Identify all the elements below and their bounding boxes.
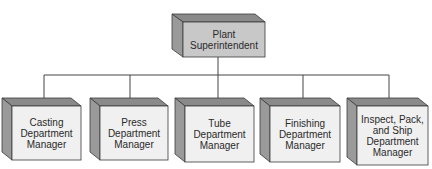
label-line: Department xyxy=(108,128,160,139)
manager-label-inspect-pack-ship: Inspect, Pack, and Ship Department Manag… xyxy=(357,106,428,165)
manager-label-press: Press Department Manager xyxy=(100,106,168,160)
connector-lines xyxy=(44,57,389,98)
label-line: Manager xyxy=(279,140,331,151)
label-line: Casting xyxy=(20,117,72,128)
label-line: Finishing xyxy=(279,118,331,129)
label-line: Manager xyxy=(361,147,424,158)
manager-label-finishing: Finishing Department Manager xyxy=(270,106,340,162)
root-label: Plant Superintendent xyxy=(183,22,265,57)
manager-label-casting: Casting Department Manager xyxy=(12,106,81,160)
label-line: Department xyxy=(20,128,72,139)
label-line: Press xyxy=(108,117,160,128)
label-line: and Ship xyxy=(361,125,424,136)
label-line: Tube xyxy=(193,118,245,129)
label-line: Department xyxy=(361,136,424,147)
label-line: Manager xyxy=(20,139,72,150)
manager-label-tube: Tube Department Manager xyxy=(185,106,254,162)
label-line: Department xyxy=(193,129,245,140)
label-line: Inspect, Pack, xyxy=(361,114,424,125)
root-label-line1: Plant xyxy=(190,29,258,40)
label-line: Manager xyxy=(108,139,160,150)
root-label-line2: Superintendent xyxy=(190,40,258,51)
label-line: Department xyxy=(279,129,331,140)
label-line: Manager xyxy=(193,140,245,151)
